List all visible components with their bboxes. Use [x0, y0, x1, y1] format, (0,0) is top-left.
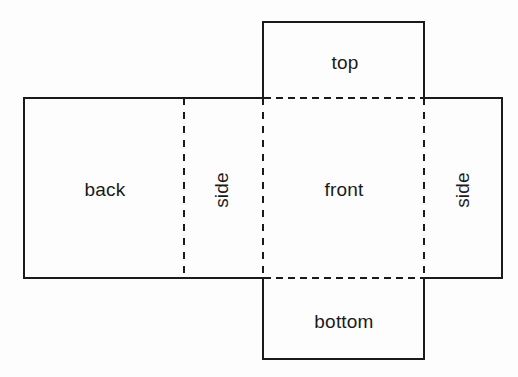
panel-label-side-right: side — [452, 172, 474, 208]
panel-label-back: back — [85, 179, 126, 201]
panel-label-top: top — [331, 52, 358, 74]
panel-label-bottom: bottom — [314, 311, 373, 333]
panel-label-side-left: side — [211, 172, 233, 208]
panel-label-front: front — [324, 179, 363, 201]
diagram-canvas: back side front side top bottom — [0, 0, 518, 377]
box-net-drawing — [0, 0, 518, 377]
